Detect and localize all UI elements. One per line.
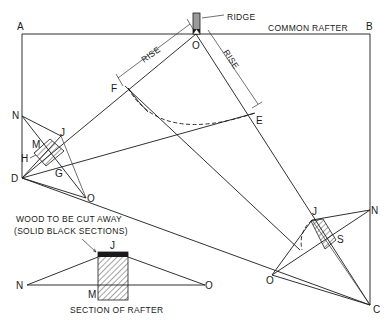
rafter-section	[27, 252, 205, 300]
section-caption: SECTION OF RAFTER	[70, 305, 163, 315]
label-f: F	[111, 83, 117, 94]
label-o-top: O	[192, 40, 200, 51]
label-m-section: M	[88, 289, 96, 300]
label-h: H	[21, 153, 28, 164]
label-o-right: O	[266, 275, 274, 286]
right-construction	[272, 210, 370, 305]
wood-cut-leader	[82, 239, 96, 252]
ridge-block	[193, 13, 200, 34]
label-c: C	[373, 304, 380, 315]
ridge-leader	[202, 15, 224, 18]
label-b: B	[366, 21, 373, 32]
wood-cut-label-line1: WOOD TO BE CUT AWAY	[16, 214, 122, 224]
ridge-label: RIDGE	[227, 12, 255, 22]
label-n-section: N	[16, 280, 23, 291]
label-o-section: O	[205, 280, 213, 291]
arc-solid-part	[128, 88, 148, 112]
rise-label-right: RISE	[221, 48, 241, 71]
label-g: G	[55, 168, 63, 179]
label-s-right: S	[337, 234, 344, 245]
label-j-right: J	[312, 206, 317, 217]
label-j-section: J	[110, 240, 115, 251]
label-o-left: O	[87, 193, 95, 204]
common-rafter-label: COMMON RAFTER	[268, 23, 348, 33]
label-e: E	[256, 115, 263, 126]
label-d: D	[11, 173, 18, 184]
rafter-diagram: A B C D E F G H J M N O O J N S O J M N …	[0, 0, 389, 325]
label-n-left: N	[12, 110, 19, 121]
label-m-left: M	[32, 139, 40, 150]
label-a: A	[17, 21, 24, 32]
left-construction	[22, 116, 86, 198]
label-n-right: N	[371, 205, 378, 216]
wood-cut-label-line2: (SOLID BLACK SECTIONS)	[14, 226, 128, 236]
label-j-left: J	[60, 127, 65, 138]
